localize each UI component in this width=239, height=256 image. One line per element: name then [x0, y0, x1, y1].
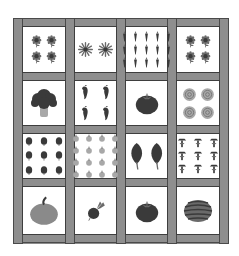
beet-icon: [84, 199, 108, 223]
plant-group: [126, 81, 167, 125]
carrot-icon: [121, 57, 128, 68]
pepper-icon: [101, 106, 111, 121]
aster-icon: [97, 41, 114, 58]
spinach-icon: [149, 142, 164, 171]
garden-cell-3-3[interactable]: [176, 186, 220, 235]
carrot-icon: [154, 31, 161, 42]
onion-icon: [98, 158, 106, 166]
plant-group: [75, 187, 116, 234]
cabbage-icon: [200, 87, 215, 102]
onion-icon: [85, 170, 93, 178]
carrot-icon: [165, 44, 172, 55]
cabbage-icon: [182, 105, 197, 120]
wood-rail: [176, 234, 220, 243]
basil-icon: [40, 166, 48, 176]
plant-group: [177, 187, 219, 234]
corn-icon: [177, 138, 187, 148]
carrot-icon: [132, 57, 139, 68]
basil-icon: [55, 151, 63, 161]
basil-icon: [25, 137, 33, 147]
garden-cell-0-2[interactable]: [125, 26, 168, 73]
onion-icon: [111, 134, 119, 142]
sunflower-icon: [184, 51, 197, 64]
carrot-icon: [143, 57, 150, 68]
wood-rail: [125, 234, 168, 243]
onion-icon: [85, 146, 93, 154]
carrot-icon: [154, 44, 161, 55]
sunflower-icon: [45, 35, 58, 48]
garden-cell-3-0[interactable]: [22, 186, 66, 235]
plant-group: [75, 81, 116, 125]
onion-icon: [98, 134, 106, 142]
onion-icon: [98, 170, 106, 178]
corn-icon: [209, 138, 219, 148]
garden-cell-0-1[interactable]: [74, 26, 117, 73]
garden-cell-3-2[interactable]: [125, 186, 168, 235]
garden-cell-2-1[interactable]: [74, 133, 117, 179]
corn-icon: [193, 151, 203, 161]
carrot-icon: [132, 31, 139, 42]
onion-icon: [85, 134, 93, 142]
cabbage-icon: [200, 105, 215, 120]
onion-icon: [111, 158, 119, 166]
basil-icon: [55, 166, 63, 176]
pepper-icon: [80, 106, 90, 121]
garden-cell-3-1[interactable]: [74, 186, 117, 235]
corn-icon: [177, 151, 187, 161]
watermelon-icon: [183, 196, 213, 226]
garden-cell-0-0[interactable]: [22, 26, 66, 73]
carrot-icon: [143, 44, 150, 55]
garden-cell-2-0[interactable]: [22, 133, 66, 179]
corn-icon: [209, 164, 219, 174]
carrot-icon: [121, 44, 128, 55]
garden-cell-1-0[interactable]: [22, 80, 66, 126]
garden-cell-2-3[interactable]: [176, 133, 220, 179]
carrot-icon: [165, 31, 172, 42]
sunflower-icon: [199, 51, 212, 64]
wood-rail: [74, 234, 117, 243]
garden-cell-1-2[interactable]: [125, 80, 168, 126]
garden-cell-0-3[interactable]: [176, 26, 220, 73]
onion-icon: [111, 146, 119, 154]
plant-group: [23, 27, 65, 72]
garden-cell-1-1[interactable]: [74, 80, 117, 126]
aster-icon: [77, 41, 94, 58]
basil-icon: [40, 137, 48, 147]
pumpkin-icon: [28, 195, 60, 227]
plant-group: [177, 81, 219, 125]
onion-icon: [98, 146, 106, 154]
plant-group: [177, 27, 219, 72]
carrot-icon: [121, 31, 128, 42]
plant-group: [23, 81, 65, 125]
plant-group: [126, 27, 167, 72]
plant-group: [23, 187, 65, 234]
plant-group: [126, 134, 167, 178]
onion-icon: [72, 158, 80, 166]
broccoli-icon: [29, 88, 59, 118]
plant-group: [126, 187, 167, 234]
corn-icon: [193, 138, 203, 148]
plant-group: [75, 27, 116, 72]
carrot-icon: [143, 31, 150, 42]
garden-bed: [13, 18, 229, 244]
carrot-icon: [132, 44, 139, 55]
onion-icon: [111, 170, 119, 178]
tomato-icon: [133, 89, 161, 117]
sunflower-icon: [30, 51, 43, 64]
sunflower-icon: [184, 35, 197, 48]
garden-cell-1-3[interactable]: [176, 80, 220, 126]
pepper-icon: [80, 85, 90, 100]
wood-rail: [22, 234, 66, 243]
sunflower-icon: [45, 51, 58, 64]
garden-cell-2-2[interactable]: [125, 133, 168, 179]
plant-group: [23, 134, 65, 178]
corn-icon: [209, 151, 219, 161]
onion-icon: [85, 158, 93, 166]
onion-icon: [72, 146, 80, 154]
onion-icon: [72, 170, 80, 178]
plant-group: [75, 134, 116, 178]
cabbage-icon: [182, 87, 197, 102]
tomato-icon: [133, 197, 161, 225]
plant-group: [177, 134, 219, 178]
pepper-icon: [101, 85, 111, 100]
